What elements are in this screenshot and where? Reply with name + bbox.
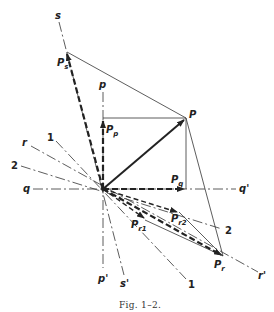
label-p-axis: p xyxy=(98,79,106,90)
axis-1 xyxy=(56,141,186,279)
label-Pr1: Pr1 xyxy=(131,219,147,233)
label-Pp: Pp xyxy=(106,124,118,138)
label-Pq: Pq xyxy=(171,174,183,188)
label-q: q xyxy=(23,183,30,194)
label-line-2-left: 2 xyxy=(11,160,18,171)
label-q-prime: q' xyxy=(239,183,249,194)
label-s: s xyxy=(55,10,61,21)
label-Ps: Ps xyxy=(57,57,69,71)
axis-2 xyxy=(21,166,222,229)
label-line-1-lower: 1 xyxy=(188,279,195,290)
vector-pr xyxy=(103,189,221,255)
label-P: P xyxy=(189,109,197,120)
label-line-2-right: 2 xyxy=(225,225,232,236)
force-resolution-diagram: s s' p p' q q' r r' 1 1 2 2 P Ps Pp Pq P… xyxy=(0,0,274,312)
label-r: r xyxy=(22,137,28,148)
vector-ps xyxy=(67,54,103,189)
label-p-prime: p' xyxy=(97,273,108,284)
figure-caption: Fig. 1–2. xyxy=(119,300,161,310)
axis-r xyxy=(31,146,258,272)
line-ps-to-p xyxy=(67,52,186,118)
axis-s xyxy=(59,22,124,275)
origin-point xyxy=(101,187,105,191)
label-line-1-upper: 1 xyxy=(47,132,54,143)
label-Pr: Pr xyxy=(214,259,225,273)
label-r-prime: r' xyxy=(258,270,266,281)
label-s-prime: s' xyxy=(120,278,129,289)
